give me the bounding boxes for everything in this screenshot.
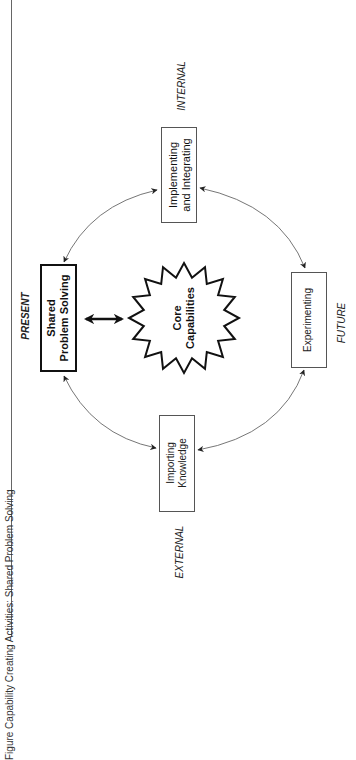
label-future: FUTURE [336, 293, 348, 353]
label-external: EXTERNAL [174, 520, 186, 584]
arc-implementing-shared [64, 190, 157, 262]
arc-shared-importing [64, 376, 156, 448]
implementing-integrating-label: Implementing and Integrating [167, 130, 191, 220]
importing-knowledge-label: Importing Knowledge [165, 418, 189, 508]
arc-implementing-experimenting [200, 188, 305, 268]
label-present: PRESENT [20, 286, 32, 346]
core-capabilities-label: Core Capabilities [171, 278, 197, 358]
arc-experimenting-importing [198, 370, 304, 450]
shared-problem-solving-label: Shared Problem Solving [45, 268, 71, 368]
label-internal: INTERNAL [176, 56, 188, 116]
experimenting-label: Experimenting [302, 275, 316, 365]
